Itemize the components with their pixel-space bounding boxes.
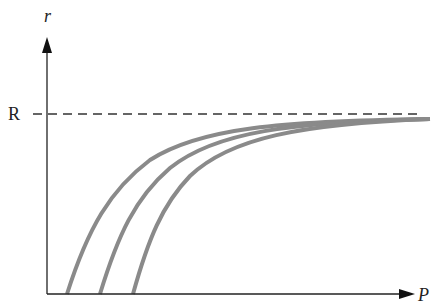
curves — [67, 119, 430, 294]
asymptote-label: R — [8, 104, 20, 124]
chart-canvas: r P R — [0, 0, 432, 304]
x-axis-arrow-icon — [399, 289, 415, 299]
x-axis-label: P — [417, 285, 429, 304]
curve-2 — [100, 119, 430, 294]
y-axis-arrow-icon — [42, 37, 52, 53]
curve-1 — [67, 119, 430, 294]
y-axis-label: r — [44, 6, 52, 26]
